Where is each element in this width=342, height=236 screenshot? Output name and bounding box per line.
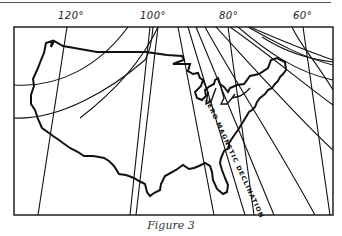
isogonic-east-4 xyxy=(216,27,333,150)
isogonic-east-9 xyxy=(292,27,333,90)
isogonic-west-3 xyxy=(80,27,158,118)
isogonic-ne xyxy=(250,27,333,60)
isogonic-zero xyxy=(196,27,274,215)
figure-caption: Figure 3 xyxy=(0,219,342,232)
isogonic-east-6 xyxy=(248,27,333,65)
isogonic-west-1 xyxy=(14,27,128,85)
meridian-60 xyxy=(303,27,330,215)
zero-declination-label: ZERO MAGNETIC DECLINATION xyxy=(204,97,266,219)
isogonic-map: ZERO MAGNETIC DECLINATION xyxy=(0,0,342,236)
